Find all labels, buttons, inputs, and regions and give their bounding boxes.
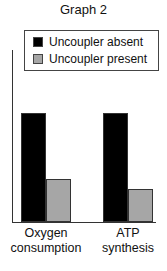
legend-label-absent: Uncoupler absent	[49, 35, 143, 49]
legend-item-present: Uncoupler present	[33, 51, 147, 67]
x-label-atp: ATP synthesis	[92, 226, 164, 256]
legend-label-present: Uncoupler present	[49, 52, 147, 66]
y-axis	[12, 50, 13, 223]
x-label-line: ATP	[92, 226, 164, 241]
x-label-line: consumption	[4, 241, 88, 256]
legend-swatch-present	[33, 54, 43, 64]
legend: Uncoupler absent Uncoupler present	[24, 30, 159, 71]
bar-present-0	[46, 179, 71, 222]
chart-title: Graph 2	[0, 2, 167, 17]
x-label-line: synthesis	[92, 241, 164, 256]
legend-item-absent: Uncoupler absent	[33, 34, 143, 50]
legend-swatch-absent	[33, 37, 43, 47]
x-label-oxygen: Oxygen consumption	[4, 226, 88, 256]
bar-present-1	[128, 189, 153, 222]
bar-absent-0	[21, 113, 46, 222]
x-label-line: Oxygen	[4, 226, 88, 241]
x-axis	[12, 222, 156, 223]
bar-absent-1	[103, 113, 128, 222]
